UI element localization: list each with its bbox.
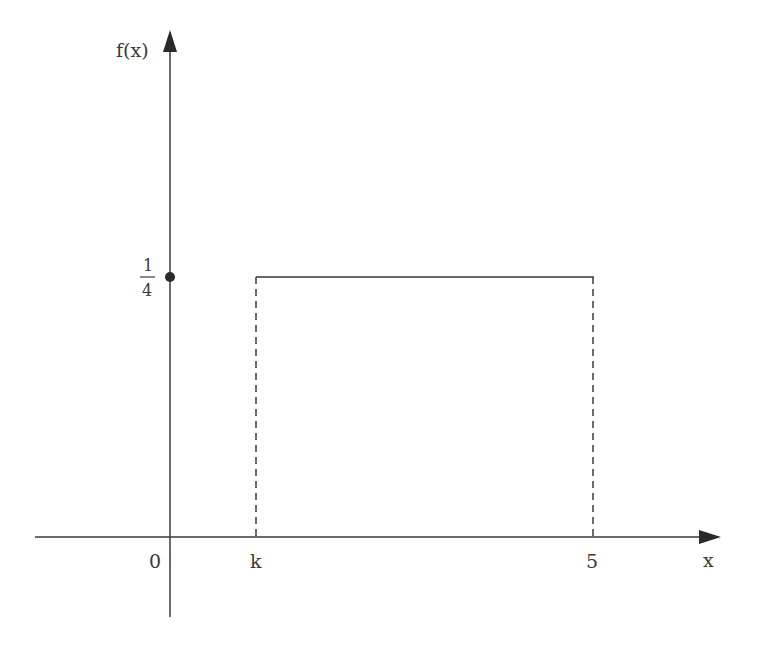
x-axis-arrow-icon [699, 530, 721, 544]
fraction-numerator: 1 [143, 256, 153, 275]
fraction-denominator: 4 [142, 281, 152, 300]
y-axis-arrow-icon [163, 30, 177, 52]
y-intercept-point [165, 272, 175, 282]
k-label: k [250, 550, 262, 572]
uniform-distribution-chart: f(x) x 0 k 5 1 4 [0, 0, 759, 652]
five-label: 5 [586, 550, 598, 572]
y-axis-label: f(x) [116, 39, 149, 61]
x-axis-label: x [703, 549, 714, 571]
origin-label: 0 [149, 550, 161, 572]
